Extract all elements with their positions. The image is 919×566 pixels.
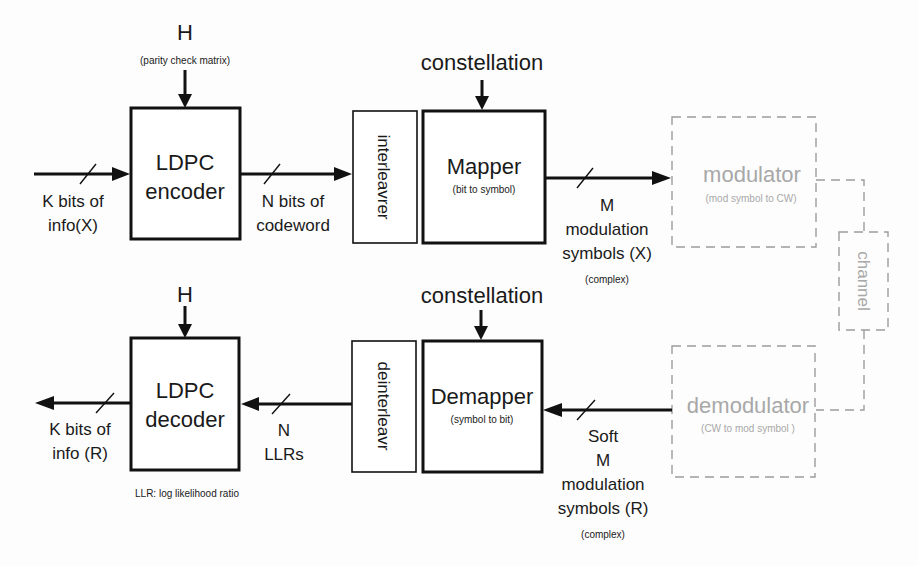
tx-h-label: H bbox=[177, 20, 193, 45]
rx-constellation-label: constellation bbox=[421, 283, 543, 308]
rx-complex-note: (complex) bbox=[581, 529, 625, 540]
tx-symbols-label-3: symbols (X) bbox=[562, 244, 652, 263]
mapper-subtitle: (bit to symbol) bbox=[453, 184, 516, 195]
tx-h-sublabel: (parity check matrix) bbox=[140, 55, 230, 66]
rx-symbols-label-2: M bbox=[596, 451, 610, 470]
channel-label: channel bbox=[854, 251, 873, 311]
demapper-subtitle: (symbol to bit) bbox=[451, 414, 514, 425]
rx-symbols-label-4: symbols (R) bbox=[558, 499, 649, 518]
tx-constellation-label: constellation bbox=[421, 50, 543, 75]
decoder-label-1: LDPC bbox=[156, 378, 215, 403]
tx-input-arrow bbox=[34, 164, 130, 184]
demodulator-block: demodulator (CW to mod symbol ) bbox=[672, 346, 815, 477]
rx-h-arrow bbox=[178, 306, 192, 338]
interleaver-label: interleavrer bbox=[374, 134, 393, 219]
ldpc-encoder-block: LDPC encoder bbox=[131, 108, 240, 239]
interleaver-block: interleavrer bbox=[353, 111, 417, 243]
tx-codeword-arrow bbox=[240, 164, 352, 184]
tx-codeword-label-2: codeword bbox=[256, 216, 330, 235]
deinterleaver-label: deinterleavr bbox=[374, 362, 393, 451]
modulator-title: modulator bbox=[703, 162, 801, 187]
tx-symbols-label-2: modulation bbox=[565, 220, 648, 239]
llr-definition-note: LLR: log likelihood ratio bbox=[135, 488, 239, 499]
tx-input-label-2: info(X) bbox=[48, 216, 98, 235]
tx-symbols-arrow bbox=[545, 168, 671, 188]
encoder-label-2: encoder bbox=[145, 179, 225, 204]
modulator-subtitle: (mod symbol to CW) bbox=[705, 193, 796, 204]
demapper-block: Demapper (symbol to bit) bbox=[423, 341, 542, 472]
rx-symbols-arrow bbox=[543, 400, 672, 420]
tx-symbols-label-1: M bbox=[600, 196, 614, 215]
decoder-label-2: decoder bbox=[145, 407, 225, 432]
rx-llr-label-2: LLRs bbox=[264, 445, 304, 464]
demodulator-title: demodulator bbox=[687, 393, 809, 418]
rx-symbols-label-1: Soft bbox=[588, 427, 619, 446]
tx-codeword-label-1: N bits of bbox=[262, 192, 325, 211]
ldpc-decoder-block: LDPC decoder bbox=[131, 338, 239, 470]
rx-llr-label-1: N bbox=[278, 421, 290, 440]
rx-output-arrow bbox=[35, 393, 131, 413]
rx-output-label-2: info (R) bbox=[52, 444, 108, 463]
demapper-title: Demapper bbox=[431, 384, 534, 409]
rx-constellation-arrow bbox=[474, 310, 488, 340]
tx-input-label-1: K bits of bbox=[42, 192, 104, 211]
tx-constellation-arrow bbox=[475, 80, 489, 110]
rx-llr-arrow bbox=[241, 394, 352, 414]
tx-complex-note: (complex) bbox=[585, 274, 629, 285]
deinterleaver-block: deinterleavr bbox=[352, 341, 416, 472]
mapper-title: Mapper bbox=[447, 154, 522, 179]
channel-block: channel bbox=[839, 232, 888, 330]
modulator-block: modulator (mod symbol to CW) bbox=[672, 117, 816, 247]
rx-symbols-label-3: modulation bbox=[561, 475, 644, 494]
encoder-label-1: LDPC bbox=[156, 150, 215, 175]
rx-output-label-1: K bits of bbox=[49, 420, 111, 439]
demodulator-subtitle: (CW to mod symbol ) bbox=[701, 423, 795, 434]
rx-h-label: H bbox=[177, 282, 193, 307]
ldpc-system-diagram: H (parity check matrix) K bits of info(X… bbox=[0, 0, 919, 566]
mapper-block: Mapper (bit to symbol) bbox=[423, 111, 545, 243]
tx-h-arrow bbox=[178, 70, 192, 108]
